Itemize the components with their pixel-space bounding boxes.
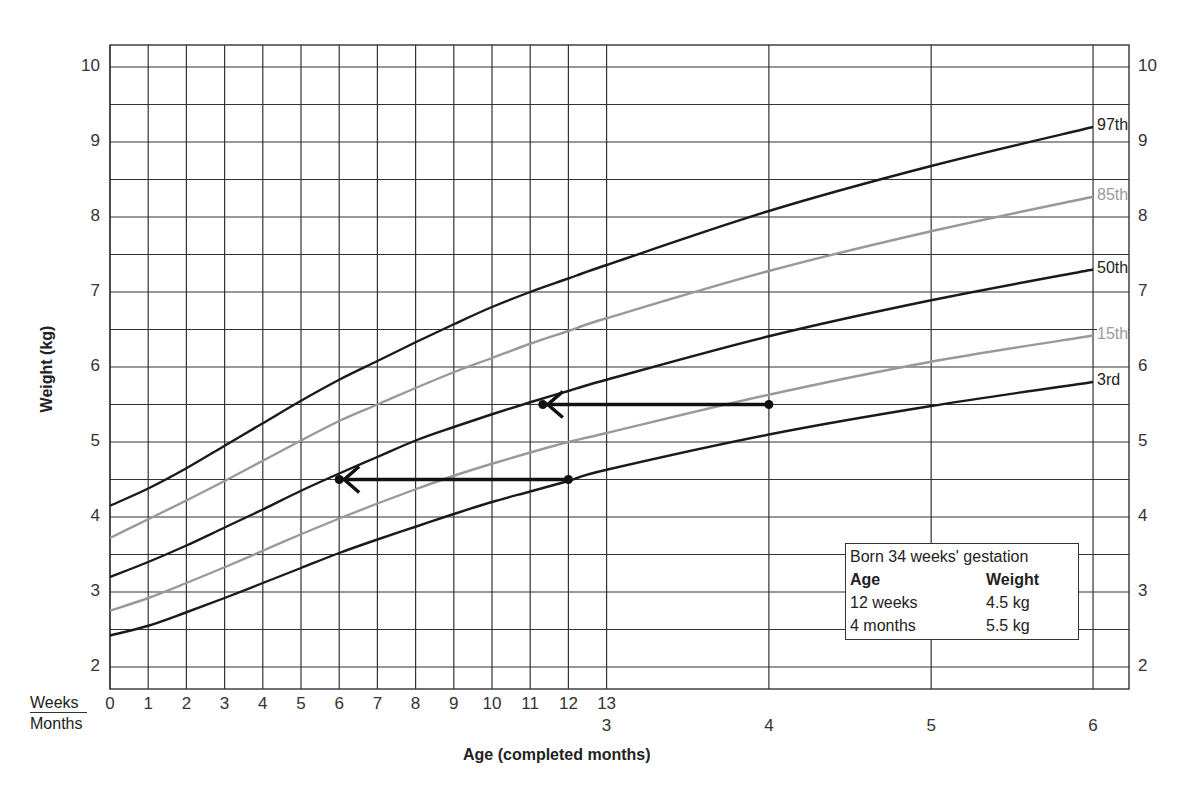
growth-chart-plot <box>0 0 1203 803</box>
y-tick-label: 4 <box>1138 506 1147 526</box>
y-tick-label: 10 <box>81 56 100 76</box>
week-tick-label: 1 <box>143 694 152 714</box>
week-tick-label: 2 <box>182 694 191 714</box>
percentile-label-97th: 97th <box>1097 116 1128 134</box>
week-tick-label: 9 <box>449 694 458 714</box>
y-tick-label: 8 <box>1138 206 1147 226</box>
y-tick-label: 8 <box>91 206 100 226</box>
week-tick-label: 11 <box>521 694 539 714</box>
month-tick-label: 6 <box>1088 716 1097 736</box>
week-tick-label: 6 <box>334 694 343 714</box>
percentile-curve-50th <box>110 270 1093 578</box>
month-tick-label: 5 <box>926 716 935 736</box>
percentile-curve-97th <box>110 127 1093 506</box>
weight-value: 4.5 kg <box>986 591 1030 614</box>
age-header: Age <box>850 568 986 591</box>
y-tick-label: 7 <box>91 281 100 301</box>
y-tick-label: 3 <box>1138 581 1147 601</box>
week-tick-label: 8 <box>411 694 420 714</box>
info-box: Born 34 weeks' gestation Age Weight 12 w… <box>845 543 1079 640</box>
x-axis-title: Age (completed months) <box>463 746 651 764</box>
week-tick-label: 13 <box>597 694 616 714</box>
info-box-row: 4 months 5.5 kg <box>850 614 1074 637</box>
correction-arrow <box>538 392 773 418</box>
percentile-label-15th: 15th <box>1097 325 1128 343</box>
week-tick-label: 0 <box>105 694 114 714</box>
week-tick-label: 5 <box>296 694 305 714</box>
y-tick-label: 7 <box>1138 281 1147 301</box>
y-tick-label: 9 <box>1138 131 1147 151</box>
week-tick-label: 12 <box>559 694 578 714</box>
y-tick-label: 4 <box>91 506 100 526</box>
info-box-row: 12 weeks 4.5 kg <box>850 591 1074 614</box>
info-box-title: Born 34 weeks' gestation <box>850 545 1028 568</box>
y-axis-title: Weight (kg) <box>38 314 56 424</box>
y-tick-label: 5 <box>1138 431 1147 451</box>
weight-header: Weight <box>986 568 1039 591</box>
months-row-label: Months <box>30 715 82 733</box>
y-tick-label: 6 <box>1138 356 1147 376</box>
y-tick-label: 3 <box>91 581 100 601</box>
week-tick-label: 10 <box>483 694 502 714</box>
info-box-title-row: Born 34 weeks' gestation <box>850 545 1074 568</box>
week-tick-label: 7 <box>373 694 382 714</box>
y-tick-label: 9 <box>91 131 100 151</box>
percentile-label-3rd: 3rd <box>1097 371 1120 389</box>
month-tick-label: 4 <box>764 716 773 736</box>
week-tick-label: 4 <box>258 694 267 714</box>
y-tick-label: 2 <box>91 656 100 676</box>
percentile-label-85th: 85th <box>1097 186 1128 204</box>
weight-value: 5.5 kg <box>986 614 1030 637</box>
weeks-row-label: Weeks <box>30 694 87 713</box>
age-value: 12 weeks <box>850 591 986 614</box>
age-value: 4 months <box>850 614 986 637</box>
y-tick-label: 10 <box>1138 56 1157 76</box>
y-tick-label: 5 <box>91 431 100 451</box>
month-tick-label: 3 <box>602 716 611 736</box>
y-tick-label: 2 <box>1138 656 1147 676</box>
info-box-header-row: Age Weight <box>850 568 1074 591</box>
week-tick-label: 3 <box>220 694 229 714</box>
percentile-label-50th: 50th <box>1097 259 1128 277</box>
y-tick-label: 6 <box>91 356 100 376</box>
